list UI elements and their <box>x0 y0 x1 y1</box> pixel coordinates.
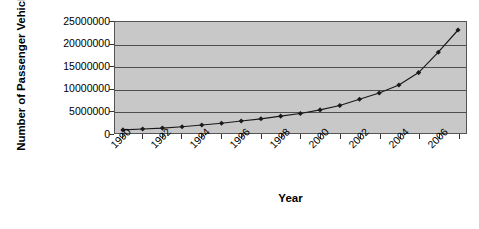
y-tick-label: 25000000 <box>26 16 110 27</box>
y-tick-label: 15000000 <box>26 61 110 72</box>
y-tick-label: 5000000 <box>26 106 110 117</box>
x-axis-title: Year <box>114 192 467 204</box>
y-axis-tick-labels: 2500000020000000150000001000000050000000 <box>26 15 110 141</box>
x-tickmark <box>181 134 182 139</box>
x-tickmark <box>459 134 460 139</box>
x-tickmark <box>340 134 341 139</box>
x-tickmark <box>221 134 222 139</box>
chart-screenshot: Number of Passenger Vehicles 25000000200… <box>0 0 479 229</box>
data-point-marker <box>317 107 322 112</box>
y-tickmark <box>109 21 114 22</box>
y-tickmark <box>109 89 114 90</box>
y-tickmark <box>109 44 114 45</box>
x-tickmark <box>142 134 143 139</box>
y-tickmark <box>109 66 114 67</box>
x-tickmark <box>419 134 420 139</box>
caption-text <box>0 221 479 229</box>
data-point-marker <box>357 97 362 102</box>
data-point-marker <box>377 90 382 95</box>
x-tickmark <box>380 134 381 139</box>
data-point-marker <box>278 114 283 119</box>
data-point-marker <box>239 118 244 123</box>
x-tickmark <box>300 134 301 139</box>
y-tickmark <box>109 111 114 112</box>
x-tickmark <box>261 134 262 139</box>
y-tick-label: 10000000 <box>26 83 110 94</box>
y-tick-label: 0 <box>26 129 110 140</box>
y-tick-label: 20000000 <box>26 38 110 49</box>
data-point-marker <box>337 103 342 108</box>
data-point-marker <box>140 126 145 131</box>
data-point-marker <box>298 111 303 116</box>
